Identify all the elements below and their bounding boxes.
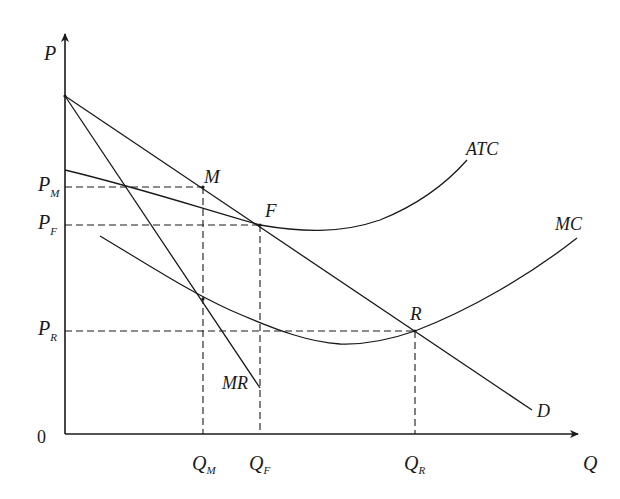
- tick-label-qm: QM: [192, 452, 216, 476]
- point-label-f: F: [264, 200, 277, 221]
- axis-label-q: Q: [583, 452, 598, 474]
- curve-label-d: D: [536, 401, 550, 421]
- mc-curve: [100, 236, 577, 344]
- tick-label-pf: PF: [37, 211, 57, 237]
- chart-canvas: P Q 0 PM PF PR QM QF QR M F R ATC MC MR …: [0, 0, 620, 499]
- curve-label-mc: MC: [554, 214, 583, 234]
- regulated-monopoly-chart: P Q 0 PM PF PR QM QF QR M F R ATC MC MR …: [0, 0, 620, 499]
- tick-label-pr: PR: [37, 317, 57, 343]
- demand-curve: [65, 96, 532, 410]
- curve-label-atc: ATC: [465, 139, 499, 159]
- origin-label: 0: [37, 427, 46, 447]
- guide-lines: [65, 187, 415, 434]
- curve-label-mr: MR: [221, 373, 248, 393]
- point-f-dot: [258, 223, 261, 226]
- point-label-r: R: [409, 303, 422, 324]
- tick-label-qf: QF: [249, 452, 270, 476]
- mr-mc-dot: [201, 297, 204, 300]
- point-r-dot: [413, 329, 416, 332]
- marginal-revenue-curve: [65, 96, 260, 388]
- tick-label-pm: PM: [37, 173, 60, 199]
- point-label-m: M: [203, 166, 221, 187]
- axis-label-p: P: [43, 42, 56, 64]
- tick-label-qr: QR: [404, 452, 425, 476]
- intercept-dot: [63, 94, 66, 97]
